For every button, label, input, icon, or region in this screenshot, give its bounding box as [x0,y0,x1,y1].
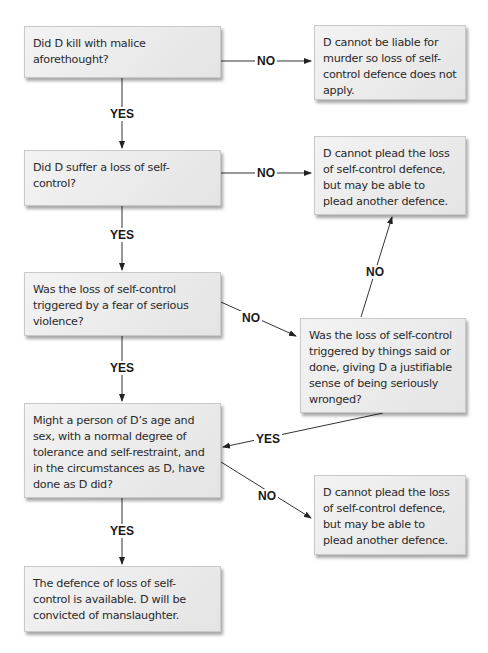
edge-label-q3-yes: YES [108,361,136,375]
question-malice-aforethought: Did D kill with malice aforethought? [24,26,221,78]
edge-label-q4-yes: YES [254,432,282,446]
question-normal-person-test: Might a person of D’s age and sex, with … [24,403,221,498]
edge-label-q5-no: NO [256,489,278,503]
result-cannot-plead-defence-2: D cannot plead the loss of self-control … [314,475,466,555]
edge-label-q1-yes: YES [108,107,136,121]
result-not-liable-for-murder: D cannot be liable for murder so loss of… [314,25,466,100]
edge-label-q4-no: NO [364,265,386,279]
edge-label-q2-no: NO [255,166,277,180]
question-loss-of-self-control: Did D suffer a loss of self-control? [24,150,221,206]
edge-label-q5-yes: YES [108,524,136,538]
edge-label-q3-no: NO [240,311,262,325]
result-cannot-plead-defence-1: D cannot plead the loss of self-control … [314,136,466,215]
result-manslaughter: The defence of loss of self-control is a… [24,566,221,632]
question-fear-of-violence: Was the loss of self-control triggered b… [24,272,221,336]
edge-label-q1-no: NO [255,54,277,68]
question-things-said-or-done: Was the loss of self-control triggered b… [300,318,466,413]
edge-label-q2-yes: YES [108,228,136,242]
